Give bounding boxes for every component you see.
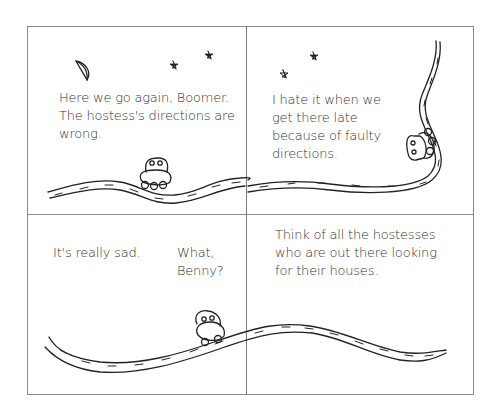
car-icon bbox=[407, 129, 436, 161]
caption-line: Benny? bbox=[177, 262, 223, 280]
caption-line: The hostess's directions are bbox=[59, 107, 235, 125]
caption-line: It's really sad. bbox=[53, 244, 140, 262]
comic-artwork bbox=[0, 0, 500, 418]
road-icon bbox=[48, 178, 250, 204]
star-icon bbox=[205, 51, 213, 59]
caption-line: for their houses. bbox=[275, 262, 437, 280]
panel-2-caption: I hate it when we get there late because… bbox=[272, 91, 381, 163]
star-icon bbox=[170, 61, 178, 69]
star-icon bbox=[280, 70, 288, 78]
panel-4-caption: Think of all the hostesses who are out t… bbox=[275, 226, 437, 280]
moon-icon bbox=[76, 61, 89, 80]
caption-line: get there late bbox=[272, 109, 381, 127]
caption-line: Here we go again, Boomer. bbox=[59, 89, 235, 107]
panel-1-caption: Here we go again, Boomer. The hostess's … bbox=[59, 89, 235, 143]
caption-line: What, bbox=[177, 244, 223, 262]
caption-line: because of faulty bbox=[272, 127, 381, 145]
caption-line: I hate it when we bbox=[272, 91, 381, 109]
caption-line: wrong. bbox=[59, 125, 235, 143]
caption-line: Think of all the hostesses bbox=[275, 226, 437, 244]
caption-line: who are out there looking bbox=[275, 244, 437, 262]
road-icon bbox=[45, 325, 446, 373]
panel-3-caption-left: It's really sad. bbox=[53, 244, 140, 262]
star-icon bbox=[310, 52, 318, 60]
panel-3-caption-right: What, Benny? bbox=[177, 244, 223, 280]
caption-line: directions. bbox=[272, 145, 381, 163]
car-icon bbox=[140, 158, 171, 190]
